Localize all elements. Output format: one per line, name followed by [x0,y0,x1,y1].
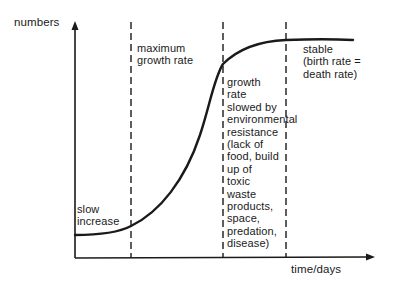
x-axis-arrow-icon [366,254,375,261]
y-axis-label: numbers [14,16,59,28]
x-axis [75,257,367,258]
phase-label-slow-increase: slow increase [77,203,119,228]
x-axis-label: time/days [291,263,341,275]
phase-label-growth-slowed: growth rate slowed by environmental resi… [227,76,297,250]
phase-label-maximum-growth: maximum growth rate [137,42,193,67]
phase-label-stable: stable (birth rate = death rate) [303,43,361,80]
y-axis-arrow-icon [72,21,79,30]
